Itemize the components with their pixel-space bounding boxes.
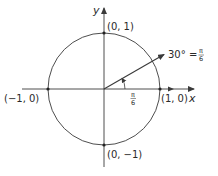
arc-frac-den: 6 bbox=[131, 99, 135, 107]
point-0-neg1 bbox=[102, 143, 105, 146]
angle-arc bbox=[122, 79, 125, 90]
y-axis-label: y bbox=[92, 4, 100, 17]
point-neg1-0 bbox=[46, 87, 49, 90]
x-axis-label: x bbox=[188, 92, 196, 105]
point-label-neg1-0: (−1, 0) bbox=[4, 93, 39, 104]
angle-frac-den: 6 bbox=[199, 55, 203, 63]
angle-vector bbox=[104, 55, 164, 90]
unit-circle-diagram: y x (0, 1) (1, 0) (−1, 0) (0, −1) 30° = … bbox=[0, 0, 218, 176]
point-1-0 bbox=[158, 87, 161, 90]
angle-label: 30° = bbox=[168, 49, 197, 60]
point-label-0-neg1: (0, −1) bbox=[107, 149, 142, 160]
x-unit-arrow-icon bbox=[168, 87, 174, 92]
point-label-0-1: (0, 1) bbox=[107, 21, 134, 32]
point-0-1 bbox=[102, 31, 105, 34]
angle-frac-num: π bbox=[199, 47, 203, 55]
point-label-1-0: (1, 0) bbox=[161, 93, 188, 104]
